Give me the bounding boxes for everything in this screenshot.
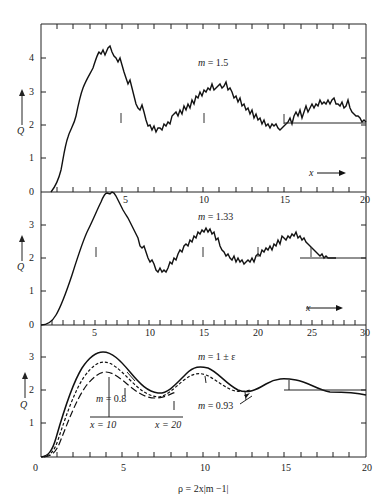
top-y-axis-label: Q — [17, 126, 24, 136]
mid-ytick-3: 3 — [29, 220, 34, 230]
top-panel-title: m = 1.5 — [198, 58, 228, 68]
top-ytick-4: 4 — [29, 53, 34, 63]
bot-ytick-2: 2 — [29, 385, 34, 395]
top-ytick-2: 2 — [29, 120, 34, 130]
top-xtick-5: 5 — [123, 195, 128, 205]
mid-ytick-1: 1 — [29, 286, 34, 296]
bottom-x-axis-label: ρ = 2x|m −1| — [178, 484, 229, 494]
mid-ytick-2: 2 — [29, 253, 34, 263]
curve-m-1-33 — [41, 192, 336, 325]
bot-xtick-20: 20 — [362, 463, 372, 473]
mid-xtick-5: 5 — [92, 328, 97, 338]
bot-xtick-15: 15 — [281, 463, 291, 473]
annotation-x-10: x = 10 — [90, 420, 116, 430]
mid-x-arrow-label: x — [306, 303, 310, 313]
bottom-panel-frame — [41, 325, 366, 457]
annotation-x-20: x = 20 — [155, 420, 181, 430]
bot-ytick-3: 3 — [29, 352, 34, 362]
bot-xtick-0: 0 — [33, 463, 38, 473]
top-xtick-10: 10 — [199, 195, 209, 205]
top-ytick-3: 3 — [29, 87, 34, 97]
bot-panel-title: m = 1 ± ε — [198, 352, 236, 362]
mid-xtick-20: 20 — [253, 328, 263, 338]
chart-figure — [0, 0, 389, 503]
bot-xtick-10: 10 — [200, 463, 210, 473]
mid-panel-title: m = 1.33 — [198, 212, 233, 222]
top-ytick-0: 0 — [29, 187, 34, 197]
top-ytick-1: 1 — [29, 153, 34, 163]
mid-ytick-0: 0 — [29, 320, 34, 330]
annotation-m-0-93: m = 0.93 — [198, 401, 233, 411]
annotation-m-0-8: m = 0.8 — [96, 394, 126, 404]
top-xtick-15: 15 — [280, 195, 290, 205]
bot-y-axis-label: Q — [20, 400, 27, 410]
mid-xtick-30: 30 — [360, 328, 370, 338]
top-x-arrow-label: x — [309, 168, 313, 178]
mid-xtick-10: 10 — [145, 328, 155, 338]
mid-xtick-15: 15 — [199, 328, 209, 338]
top-xtick-20: 20 — [360, 195, 370, 205]
mid-y-axis-label: Q — [17, 262, 24, 272]
top-panel-frame — [41, 24, 366, 192]
bot-xtick-5: 5 — [121, 463, 126, 473]
mid-xtick-25: 25 — [307, 328, 317, 338]
bot-ytick-1: 1 — [29, 418, 34, 428]
